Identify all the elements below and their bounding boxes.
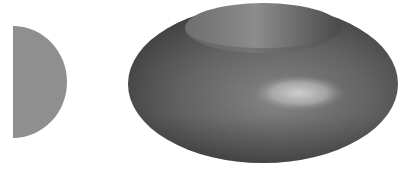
half-disk-shape [13, 26, 67, 138]
torus-shape [128, 3, 398, 163]
solid-of-revolution-figure [0, 0, 413, 178]
